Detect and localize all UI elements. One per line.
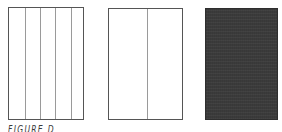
- column-divider: [40, 8, 41, 119]
- panel-five-columns: [8, 7, 84, 120]
- panel-solid-dark: [205, 8, 278, 120]
- column-divider: [55, 8, 56, 119]
- column-divider: [25, 8, 26, 119]
- column-divider: [71, 8, 72, 119]
- column-divider: [147, 9, 148, 119]
- panel-two-columns: [108, 8, 183, 120]
- figure-caption: FIGURE D: [8, 124, 55, 132]
